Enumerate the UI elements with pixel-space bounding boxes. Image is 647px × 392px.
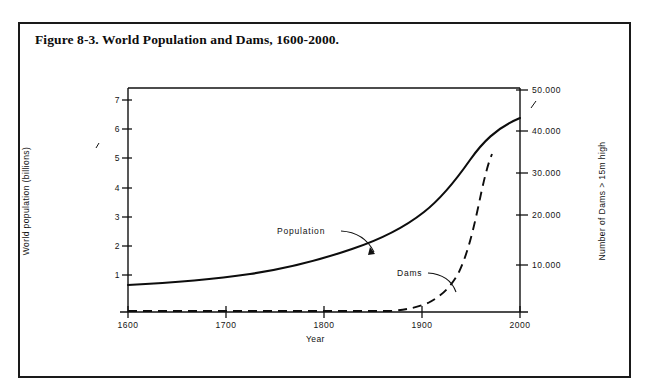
figure-frame: Figure 8-3. World Population and Dams, 1… (18, 22, 631, 378)
figure-caption: Figure 8-3. World Population and Dams, 1… (35, 32, 339, 48)
